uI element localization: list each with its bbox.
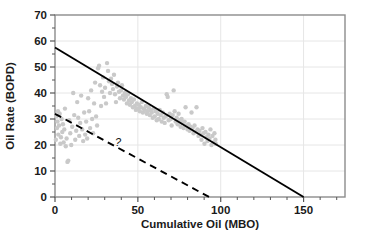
data-point [189, 110, 193, 114]
data-point [74, 129, 78, 133]
data-point [87, 109, 91, 113]
data-point [100, 90, 104, 94]
data-point [169, 123, 173, 127]
data-point [132, 97, 136, 101]
data-point [70, 125, 74, 129]
y-tick-label: 60 [34, 35, 47, 47]
data-point [64, 144, 68, 148]
data-point [68, 131, 72, 135]
data-point [61, 140, 65, 144]
data-point [200, 126, 204, 130]
data-point [84, 119, 88, 123]
x-tick-labels: 050100150 [52, 204, 313, 216]
data-point [105, 61, 109, 65]
data-point [69, 143, 73, 147]
data-point [208, 127, 212, 131]
data-point [172, 109, 176, 113]
data-point [165, 95, 169, 99]
data-point [182, 119, 186, 123]
data-point [102, 95, 106, 99]
data-point [163, 121, 167, 125]
data-point [108, 91, 112, 95]
data-point [199, 138, 203, 142]
data-point [93, 80, 97, 84]
data-point [112, 73, 116, 77]
scatter-plot-svg: 050100150 010203040506070 ? Cumulative O… [0, 0, 371, 245]
data-point [82, 110, 86, 114]
data-point [104, 101, 108, 105]
chart-figure: 050100150 010203040506070 ? Cumulative O… [0, 0, 371, 245]
data-point [77, 134, 81, 138]
question-mark: ? [115, 136, 122, 148]
data-point [75, 100, 79, 104]
y-tick-labels: 010203040506070 [34, 9, 47, 203]
data-point [79, 93, 83, 97]
y-axis-ticks [50, 15, 55, 197]
data-point [61, 122, 65, 126]
data-point [89, 88, 93, 92]
data-point [113, 92, 117, 96]
data-point [97, 63, 101, 67]
data-point [76, 116, 80, 120]
data-point [95, 123, 99, 127]
x-tick-label: 150 [294, 204, 313, 216]
y-tick-label: 20 [34, 139, 47, 151]
y-tick-label: 70 [34, 9, 47, 21]
data-point [64, 136, 68, 140]
chart-annotations: ? [115, 136, 122, 148]
data-point [114, 100, 118, 104]
data-point [55, 119, 59, 123]
data-point [81, 139, 85, 143]
plot-area-background [55, 15, 345, 197]
data-point [194, 105, 198, 109]
data-point [85, 136, 89, 140]
data-point [54, 138, 58, 142]
data-point [59, 135, 63, 139]
data-point [94, 114, 98, 118]
data-point [213, 138, 217, 142]
data-point [92, 101, 96, 105]
data-point [57, 123, 61, 127]
data-point [73, 138, 77, 142]
data-point [171, 88, 175, 92]
data-point [90, 117, 94, 121]
data-point [83, 132, 87, 136]
y-tick-label: 0 [41, 191, 47, 203]
data-point [103, 86, 107, 90]
data-point [192, 123, 196, 127]
data-point [183, 105, 187, 109]
y-tick-label: 10 [34, 165, 47, 177]
data-point [150, 110, 154, 114]
x-tick-label: 50 [131, 204, 144, 216]
data-point [86, 96, 90, 100]
data-point [66, 158, 70, 162]
data-point [62, 127, 66, 131]
data-point [63, 106, 67, 110]
data-point [78, 121, 82, 125]
y-tick-label: 40 [34, 87, 47, 99]
y-tick-label: 30 [34, 113, 47, 125]
x-tick-label: 0 [52, 204, 58, 216]
y-axis-title: Oil Rate (BOPD) [4, 62, 16, 150]
data-point [99, 104, 103, 108]
data-point [71, 91, 75, 95]
data-point [106, 69, 110, 73]
data-point [88, 126, 92, 130]
data-point [206, 132, 210, 136]
data-point [72, 113, 76, 117]
x-axis-title: Cumulative Oil (MBO) [141, 218, 259, 230]
data-point [212, 131, 216, 135]
data-point [98, 83, 102, 87]
data-point [176, 112, 180, 116]
y-tick-label: 50 [34, 61, 47, 73]
x-axis-ticks [55, 197, 337, 202]
x-tick-label: 100 [211, 204, 230, 216]
data-point [111, 87, 115, 91]
